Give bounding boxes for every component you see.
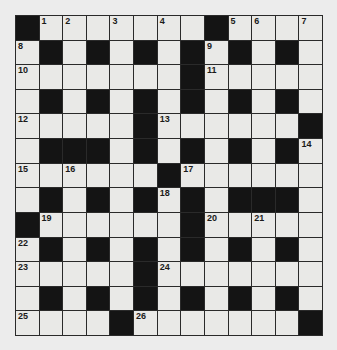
letter-cell[interactable]	[252, 262, 275, 286]
letter-cell[interactable]	[110, 65, 133, 89]
letter-cell[interactable]	[87, 164, 110, 188]
letter-cell[interactable]	[229, 164, 252, 188]
letter-cell[interactable]	[276, 311, 299, 335]
letter-cell[interactable]	[87, 65, 110, 89]
letter-cell[interactable]	[158, 238, 181, 262]
letter-cell[interactable]	[299, 287, 322, 311]
letter-cell[interactable]	[16, 90, 39, 114]
numbered-cell[interactable]: 1	[40, 16, 63, 40]
numbered-cell[interactable]: 4	[158, 16, 181, 40]
letter-cell[interactable]	[299, 164, 322, 188]
letter-cell[interactable]	[181, 114, 204, 138]
letter-cell[interactable]	[63, 311, 86, 335]
numbered-cell[interactable]: 16	[63, 164, 86, 188]
letter-cell[interactable]	[110, 41, 133, 65]
letter-cell[interactable]	[299, 262, 322, 286]
letter-cell[interactable]	[40, 114, 63, 138]
letter-cell[interactable]	[110, 213, 133, 237]
numbered-cell[interactable]: 12	[16, 114, 39, 138]
letter-cell[interactable]	[16, 139, 39, 163]
letter-cell[interactable]	[63, 188, 86, 212]
numbered-cell[interactable]: 21	[252, 213, 275, 237]
letter-cell[interactable]	[252, 65, 275, 89]
numbered-cell[interactable]: 5	[229, 16, 252, 40]
numbered-cell[interactable]: 23	[16, 262, 39, 286]
letter-cell[interactable]	[276, 213, 299, 237]
letter-cell[interactable]	[40, 164, 63, 188]
letter-cell[interactable]	[205, 114, 228, 138]
letter-cell[interactable]	[276, 16, 299, 40]
letter-cell[interactable]	[158, 90, 181, 114]
letter-cell[interactable]	[229, 114, 252, 138]
numbered-cell[interactable]: 2	[63, 16, 86, 40]
letter-cell[interactable]	[110, 262, 133, 286]
letter-cell[interactable]	[63, 287, 86, 311]
letter-cell[interactable]	[158, 213, 181, 237]
letter-cell[interactable]	[134, 213, 157, 237]
letter-cell[interactable]	[87, 114, 110, 138]
letter-cell[interactable]	[181, 311, 204, 335]
letter-cell[interactable]	[63, 114, 86, 138]
numbered-cell[interactable]: 22	[16, 238, 39, 262]
letter-cell[interactable]	[16, 287, 39, 311]
numbered-cell[interactable]: 20	[205, 213, 228, 237]
letter-cell[interactable]	[63, 65, 86, 89]
letter-cell[interactable]	[252, 238, 275, 262]
letter-cell[interactable]	[87, 311, 110, 335]
letter-cell[interactable]	[110, 139, 133, 163]
letter-cell[interactable]	[87, 16, 110, 40]
numbered-cell[interactable]: 7	[299, 16, 322, 40]
letter-cell[interactable]	[276, 114, 299, 138]
letter-cell[interactable]	[252, 164, 275, 188]
letter-cell[interactable]	[252, 114, 275, 138]
letter-cell[interactable]	[110, 164, 133, 188]
letter-cell[interactable]	[276, 164, 299, 188]
letter-cell[interactable]	[276, 262, 299, 286]
letter-cell[interactable]	[205, 139, 228, 163]
letter-cell[interactable]	[276, 65, 299, 89]
numbered-cell[interactable]: 25	[16, 311, 39, 335]
letter-cell[interactable]	[229, 311, 252, 335]
letter-cell[interactable]	[252, 90, 275, 114]
letter-cell[interactable]	[299, 213, 322, 237]
letter-cell[interactable]	[299, 238, 322, 262]
numbered-cell[interactable]: 26	[134, 311, 157, 335]
letter-cell[interactable]	[134, 65, 157, 89]
letter-cell[interactable]	[158, 311, 181, 335]
numbered-cell[interactable]: 24	[158, 262, 181, 286]
letter-cell[interactable]	[252, 41, 275, 65]
letter-cell[interactable]	[158, 65, 181, 89]
letter-cell[interactable]	[205, 287, 228, 311]
letter-cell[interactable]	[229, 213, 252, 237]
letter-cell[interactable]	[87, 262, 110, 286]
letter-cell[interactable]	[87, 213, 110, 237]
letter-cell[interactable]	[252, 311, 275, 335]
letter-cell[interactable]	[205, 238, 228, 262]
letter-cell[interactable]	[63, 262, 86, 286]
letter-cell[interactable]	[158, 287, 181, 311]
letter-cell[interactable]	[40, 311, 63, 335]
letter-cell[interactable]	[63, 238, 86, 262]
letter-cell[interactable]	[205, 188, 228, 212]
letter-cell[interactable]	[229, 65, 252, 89]
numbered-cell[interactable]: 8	[16, 41, 39, 65]
letter-cell[interactable]	[134, 164, 157, 188]
letter-cell[interactable]	[40, 65, 63, 89]
numbered-cell[interactable]: 18	[158, 188, 181, 212]
numbered-cell[interactable]: 14	[299, 139, 322, 163]
letter-cell[interactable]	[63, 41, 86, 65]
letter-cell[interactable]	[299, 41, 322, 65]
numbered-cell[interactable]: 9	[205, 41, 228, 65]
numbered-cell[interactable]: 17	[181, 164, 204, 188]
letter-cell[interactable]	[299, 90, 322, 114]
letter-cell[interactable]	[181, 16, 204, 40]
letter-cell[interactable]	[110, 287, 133, 311]
letter-cell[interactable]	[299, 65, 322, 89]
letter-cell[interactable]	[110, 90, 133, 114]
letter-cell[interactable]	[205, 90, 228, 114]
numbered-cell[interactable]: 3	[110, 16, 133, 40]
letter-cell[interactable]	[158, 41, 181, 65]
letter-cell[interactable]	[181, 262, 204, 286]
numbered-cell[interactable]: 19	[40, 213, 63, 237]
letter-cell[interactable]	[205, 262, 228, 286]
